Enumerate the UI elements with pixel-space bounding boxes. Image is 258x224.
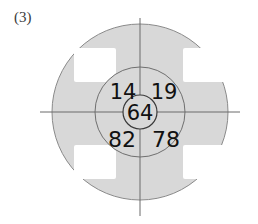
top-left-patch: [74, 48, 116, 82]
target-diagram: 14 19 64 82 78: [0, 0, 258, 224]
value-bottom-left: 82: [108, 127, 136, 152]
figure-container: (3) 14 19 64 82 78: [0, 0, 258, 224]
value-top-right: 19: [151, 80, 178, 104]
top-right-patch: [183, 48, 225, 82]
value-bottom-right: 78: [152, 127, 180, 152]
value-center: 64: [127, 101, 154, 125]
bottom-right-patch: [183, 145, 225, 179]
